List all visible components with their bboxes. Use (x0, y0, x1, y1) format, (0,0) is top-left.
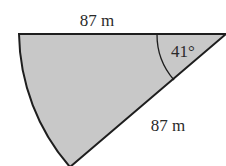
sector-shape (19, 34, 226, 166)
sector-diagram: 87 m 41° 87 m (0, 0, 226, 166)
angle-label: 41° (171, 42, 195, 61)
top-radius-label: 87 m (80, 11, 114, 30)
slant-radius-label: 87 m (151, 116, 185, 135)
